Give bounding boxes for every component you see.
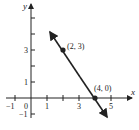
x-axis-label: x xyxy=(130,87,135,97)
point-2-3 xyxy=(60,47,65,52)
x-tick-label: 5 xyxy=(109,102,113,111)
y-ticks xyxy=(31,18,35,114)
y-tick-label: −1 xyxy=(19,110,28,119)
x-tick-label: −1 xyxy=(6,102,15,111)
x-tick-label: 1 xyxy=(45,102,49,111)
point-4-0 xyxy=(92,95,97,100)
plotted-line xyxy=(50,32,80,77)
x-tick-label: 3 xyxy=(77,102,81,111)
coordinate-plot: y x −1 0 1 3 5 3 1 −1 (2, 3) (4, 0) xyxy=(0,0,139,130)
y-tick-label: 3 xyxy=(24,46,28,55)
point-label: (4, 0) xyxy=(94,84,112,93)
point-label: (2, 3) xyxy=(67,42,85,51)
y-tick-label: 1 xyxy=(24,78,28,87)
y-axis-label: y xyxy=(22,1,27,11)
